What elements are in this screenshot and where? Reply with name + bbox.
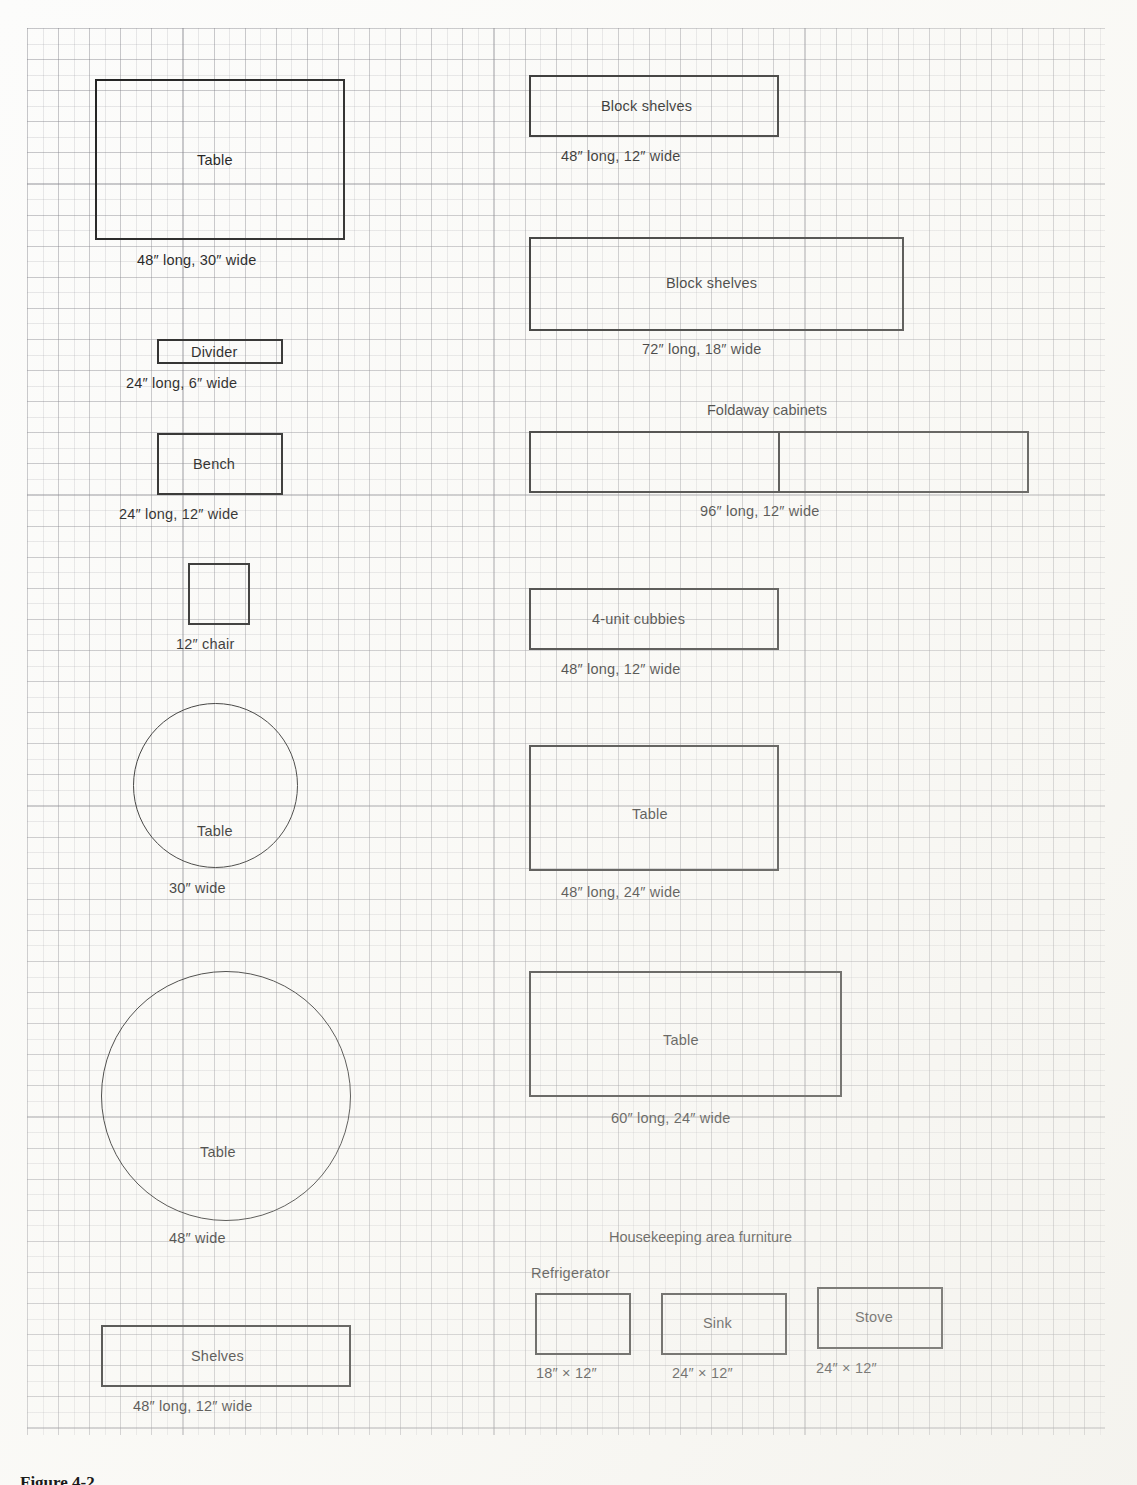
shape-label-divider: Divider [191,344,238,360]
foldaway-cabinets-center-divider [778,431,780,493]
caption-stove-dims: 24″ × 12″ [816,1360,877,1376]
shape-round-table-30[interactable] [133,703,298,868]
shape-label-round-table-30: Table [197,823,233,839]
caption-sink-dims: 24″ × 12″ [672,1365,733,1381]
caption-refrigerator-dims: 18″ × 12″ [536,1365,597,1381]
group-title-housekeeping: Housekeeping area furniture [609,1229,792,1245]
shape-label-cubbies: 4-unit cubbies [592,611,685,627]
caption-bench-24x12: 24″ long, 12″ wide [119,506,238,522]
shape-label-block-shelves-72: Block shelves [666,275,757,291]
shape-label-block-shelves-48: Block shelves [601,98,692,114]
caption-chair-12: 12″ chair [176,636,235,652]
shape-label-table-48x24: Table [632,806,668,822]
shape-label-stove: Stove [855,1309,893,1325]
caption-round-table-30: 30″ wide [169,880,226,896]
shape-refrigerator-18x12[interactable] [535,1293,631,1355]
shape-label-bench: Bench [193,456,235,472]
caption-block-shelves-72x18: 72″ long, 18″ wide [642,341,761,357]
shape-label-round-table-48: Table [200,1144,236,1160]
shape-label-table-60x24: Table [663,1032,699,1048]
caption-round-table-48: 48″ wide [169,1230,226,1246]
caption-block-shelves-48x12: 48″ long, 12″ wide [561,148,680,164]
caption-divider-24x6: 24″ long, 6″ wide [126,375,237,391]
shape-chair-12x12[interactable] [188,563,250,625]
shape-round-table-48[interactable] [101,971,351,1221]
shape-label-refrigerator: Refrigerator [531,1265,610,1281]
caption-table-48x30: 48″ long, 30″ wide [137,252,256,268]
worksheet-page: Table 48″ long, 30″ wide Divider 24″ lon… [0,0,1137,1485]
shape-label-shelves: Shelves [191,1348,244,1364]
group-title-foldaway-cabinets: Foldaway cabinets [707,402,827,418]
caption-table-48x24: 48″ long, 24″ wide [561,884,680,900]
caption-table-60x24: 60″ long, 24″ wide [611,1110,730,1126]
caption-cubbies-48x12: 48″ long, 12″ wide [561,661,680,677]
caption-foldaway-cabinets-96x12: 96″ long, 12″ wide [700,503,819,519]
shape-label-sink: Sink [703,1315,732,1331]
caption-shelves-48x12: 48″ long, 12″ wide [133,1398,252,1414]
figure-caption: Figure 4-2 [20,1473,95,1485]
shape-label-table-48x30: Table [197,152,233,168]
